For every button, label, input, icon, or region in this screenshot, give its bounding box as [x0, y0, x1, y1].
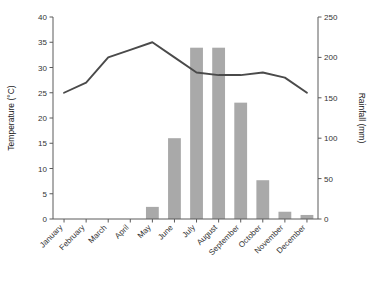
x-tick-label-june: June	[156, 223, 175, 242]
left-tick-label: 30	[38, 64, 47, 73]
left-tick-label: 15	[38, 139, 47, 148]
x-tick-label-march: March	[87, 223, 109, 245]
x-axis: JanuaryFebruaryMarchAprilMayJuneJulyAugu…	[38, 219, 318, 257]
left-axis: 0510152025303540Temperature (°C)	[6, 13, 53, 224]
left-tick-label: 25	[38, 89, 47, 98]
rainfall-bar-september	[234, 103, 247, 219]
rainfall-bar-may	[146, 207, 159, 219]
rainfall-bar-june	[168, 138, 181, 219]
right-axis-title: Rainfall (mm)	[357, 93, 367, 144]
x-tick-label-july: July	[181, 223, 197, 239]
rainfall-bar-october	[256, 180, 269, 219]
left-tick-label: 5	[43, 190, 48, 199]
left-tick-label: 20	[38, 114, 47, 123]
left-tick-label: 40	[38, 13, 47, 22]
right-tick-label: 200	[324, 53, 338, 62]
left-axis-title: Temperature (°C)	[6, 85, 16, 150]
chart-canvas: 0510152025303540Temperature (°C)05010015…	[0, 0, 372, 288]
right-tick-label: 0	[324, 215, 329, 224]
x-tick-label-april: April	[113, 223, 131, 241]
rainfall-bar-november	[278, 212, 291, 219]
left-tick-label: 35	[38, 38, 47, 47]
climate-chart: 0510152025303540Temperature (°C)05010015…	[0, 0, 372, 288]
rainfall-bars	[146, 48, 313, 219]
rainfall-bar-december	[301, 215, 314, 219]
x-tick-label-may: May	[136, 223, 153, 240]
right-tick-label: 100	[324, 134, 338, 143]
right-tick-label: 150	[324, 94, 338, 103]
left-tick-label: 0	[43, 215, 48, 224]
right-axis: 050100150200250Rainfall (mm)	[318, 13, 367, 224]
rainfall-bar-august	[212, 48, 225, 219]
right-tick-label: 50	[324, 175, 333, 184]
right-tick-label: 250	[324, 13, 338, 22]
temperature-line	[64, 42, 307, 93]
left-tick-label: 10	[38, 165, 47, 174]
